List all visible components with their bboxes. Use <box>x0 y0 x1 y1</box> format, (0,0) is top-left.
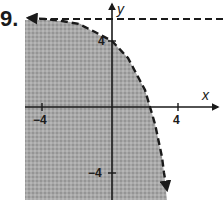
graph: −4 4 4 −4 y x <box>0 0 224 200</box>
y-tick-neg4: −4 <box>88 166 102 180</box>
x-axis-label: x <box>201 87 210 103</box>
y-tick-4: 4 <box>98 34 105 48</box>
x-tick-4: 4 <box>173 113 180 127</box>
y-axis-label: y <box>116 1 125 17</box>
x-tick-neg4: −4 <box>33 113 47 127</box>
